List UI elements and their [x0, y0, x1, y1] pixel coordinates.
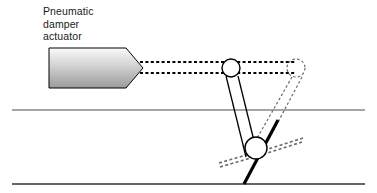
- lower-pivot-joint: [245, 137, 267, 159]
- actuator-label-line-1: Pneumatic: [43, 5, 94, 17]
- actuator-label: Pneumaticdamperactuator: [43, 5, 94, 43]
- ghost-upper-pivot-joint: [287, 59, 305, 77]
- actuator-label-line-2: damper: [43, 18, 79, 30]
- pneumatic-damper-actuator-diagram: Pneumaticdamperactuator: [0, 0, 377, 193]
- pneumatic-damper-actuator-body: [49, 48, 143, 88]
- actuator-push-rod: [140, 62, 296, 73]
- upper-pivot-joint: [222, 59, 240, 77]
- actuator-label-line-3: actuator: [43, 30, 82, 42]
- linkage-arm-left: [226, 76, 246, 157]
